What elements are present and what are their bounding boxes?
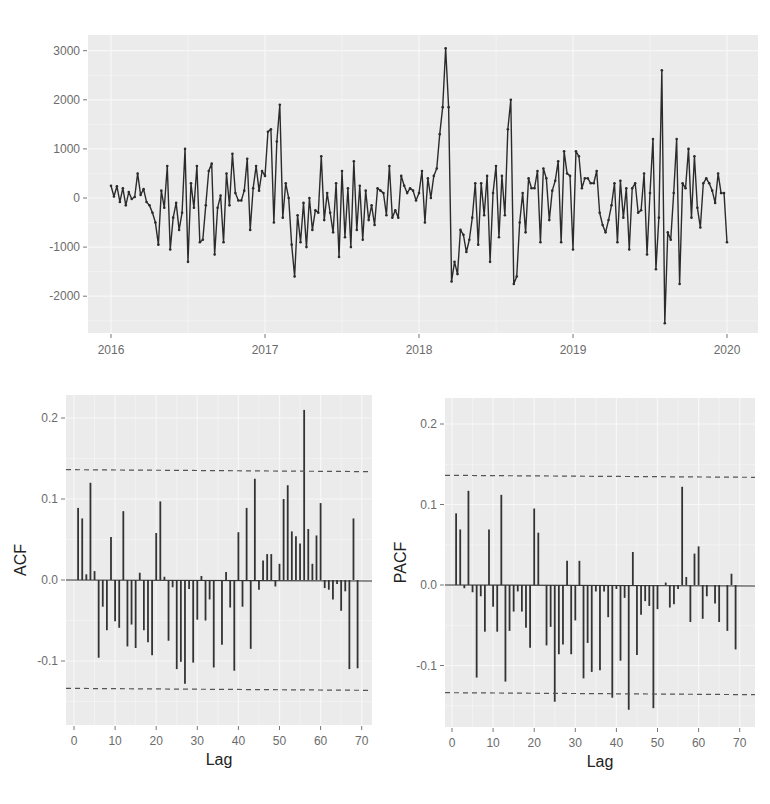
x-tick-label: 20 [528, 736, 542, 750]
x-tick-label: 30 [569, 736, 583, 750]
y-tick-label: 0.1 [41, 492, 58, 506]
y-tick-label: 1000 [53, 142, 80, 156]
acf-plot: 0.20.10.0-0.1010203040506070LagACF [12, 395, 372, 768]
x-tick-label: 50 [273, 734, 287, 748]
y-tick-label: 2000 [53, 93, 80, 107]
x-tick-label: 20 [150, 734, 164, 748]
y-tick-label: -0.1 [416, 659, 437, 673]
y-tick-label: 0.0 [420, 578, 437, 592]
y-tick-label: -0.1 [37, 654, 58, 668]
x-tick-label: 30 [191, 734, 205, 748]
x-tick-label: 50 [651, 736, 665, 750]
y-tick-label: 0.0 [41, 573, 58, 587]
timeseries-plot: 3000200010000-1000-200020162017201820192… [49, 35, 758, 357]
y-tick-label: 0.1 [420, 498, 437, 512]
y-axis-title: PACF [392, 542, 409, 584]
x-tick-label: 2016 [98, 343, 125, 357]
pacf-plot: 0.20.10.0-0.1010203040506070LagPACF [392, 398, 755, 770]
y-tick-label: 0.2 [420, 417, 437, 431]
x-tick-label: 2018 [406, 343, 433, 357]
x-tick-label: 0 [449, 736, 456, 750]
chart-canvas: 3000200010000-1000-200020162017201820192… [0, 0, 770, 804]
y-axis-title: ACF [12, 544, 29, 576]
x-tick-label: 60 [692, 736, 706, 750]
x-tick-label: 2019 [560, 343, 587, 357]
y-tick-label: 0 [73, 191, 80, 205]
panel-background [445, 398, 755, 727]
x-axis-title: Lag [587, 753, 614, 770]
x-tick-label: 70 [355, 734, 369, 748]
x-tick-label: 2020 [714, 343, 741, 357]
y-tick-label: -1000 [49, 240, 80, 254]
y-tick-label: 0.2 [41, 411, 58, 425]
x-tick-label: 10 [486, 736, 500, 750]
y-tick-label: -2000 [49, 289, 80, 303]
x-tick-label: 40 [232, 734, 246, 748]
x-axis-title: Lag [206, 751, 233, 768]
x-tick-label: 10 [108, 734, 122, 748]
y-tick-label: 3000 [53, 44, 80, 58]
x-tick-label: 2017 [252, 343, 279, 357]
x-tick-label: 0 [71, 734, 78, 748]
panel-background [66, 395, 372, 725]
x-tick-label: 60 [314, 734, 328, 748]
x-tick-label: 40 [610, 736, 624, 750]
x-tick-label: 70 [733, 736, 747, 750]
